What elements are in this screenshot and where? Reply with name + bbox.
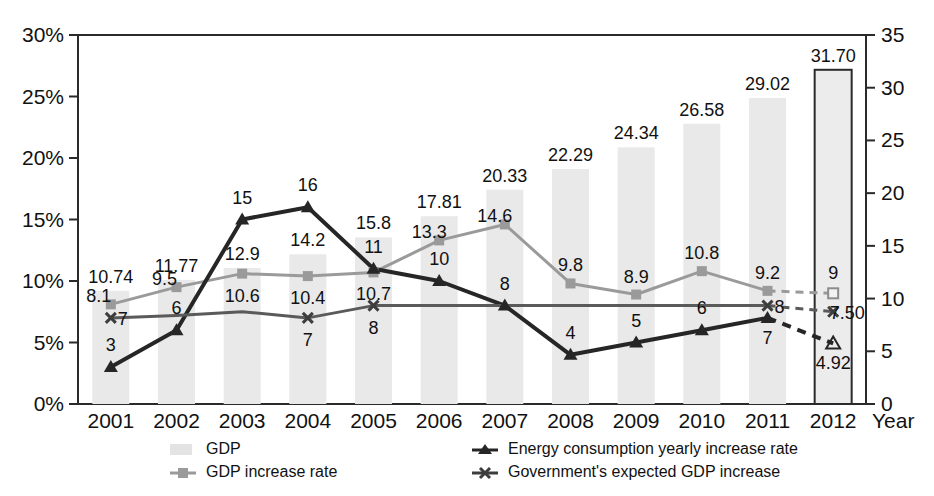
- energy-consumption-rate-data-label: 4.92: [816, 353, 851, 373]
- gdp-bar: [749, 98, 786, 404]
- x-axis-category-label: 2002: [153, 409, 200, 432]
- x-axis-category-label: 2012: [810, 409, 857, 432]
- energy-consumption-rate-data-label: 4: [565, 323, 575, 343]
- gdp-bar-label: 26.58: [679, 100, 724, 120]
- line-data-labels: 8.19.510.610.410.713.314.69.88.910.89.29…: [86, 175, 864, 373]
- right-tick-label: 25: [881, 128, 904, 151]
- gdp-increase-rate-data-label: 14.6: [477, 206, 512, 226]
- government-expected-gdp-data-label: 8: [368, 318, 378, 338]
- gdp-bar-label: 31.70: [811, 46, 856, 66]
- left-axis-ticks: 0%5%10%15%20%25%30%: [22, 23, 78, 415]
- gdp-increase-rate-marker: [303, 271, 313, 281]
- right-tick-label: 10: [881, 287, 904, 310]
- energy-consumption-rate-data-label: 8: [500, 274, 510, 294]
- x-axis-category-label: 2010: [678, 409, 725, 432]
- gdp-increase-rate-data-label: 10.6: [225, 286, 260, 306]
- gdp-bars: [92, 70, 851, 404]
- gdp-increase-rate-data-label: 10.8: [684, 243, 719, 263]
- legend-item: GDP: [170, 440, 241, 457]
- gdp-bar-label: 17.81: [417, 192, 462, 212]
- legend-square-marker-icon: [178, 468, 188, 478]
- gdp-increase-rate-marker: [697, 266, 707, 276]
- right-tick-label: 5: [881, 339, 893, 362]
- gdp-increase-rate-data-label: 8.1: [86, 286, 111, 306]
- left-tick-label: 30%: [22, 23, 64, 46]
- x-axis-category-labels: 2001200220032004200520062007200820092010…: [87, 409, 856, 432]
- legend-item-label: GDP: [206, 440, 241, 457]
- x-axis-category-label: 2008: [547, 409, 594, 432]
- gdp-bar-label: 20.33: [482, 166, 527, 186]
- gdp-bar-label: 10.74: [88, 267, 133, 287]
- x-axis-title: Year: [872, 409, 914, 432]
- gdp-bar-labels: 10.7411.7712.914.215.817.8120.3322.2924.…: [88, 46, 855, 287]
- gdp-bar-label: 14.2: [290, 230, 325, 250]
- right-axis-ticks: 05101520253035: [866, 23, 904, 415]
- x-axis-category-label: 2009: [613, 409, 660, 432]
- energy-consumption-rate-data-label: 7: [762, 328, 772, 348]
- legend-item: GDP increase rate: [170, 463, 337, 480]
- government-expected-gdp-data-label: 7.50: [830, 303, 865, 323]
- government-expected-gdp-data-label: 7: [303, 330, 313, 350]
- gdp-increase-rate-marker: [237, 269, 247, 279]
- legend-swatch-gdp-icon: [170, 444, 192, 455]
- energy-consumption-rate-data-label: 10: [429, 249, 449, 269]
- left-tick-label: 25%: [22, 85, 64, 108]
- gdp-increase-rate-marker: [631, 290, 641, 300]
- x-axis-category-label: 2007: [481, 409, 528, 432]
- right-tick-label: 20: [881, 181, 904, 204]
- left-tick-label: 0%: [34, 392, 64, 415]
- legend-item: Government's expected GDP increase: [472, 463, 780, 480]
- gdp-bar-label: 24.34: [614, 123, 659, 143]
- gdp-increase-rate-data-label: 10.4: [290, 288, 325, 308]
- left-tick-label: 5%: [34, 331, 64, 354]
- gdp-increase-rate-marker: [566, 278, 576, 288]
- gdp-increase-rate-marker: [763, 286, 773, 296]
- legend-item-label: GDP increase rate: [206, 463, 337, 480]
- line-markers-group: [104, 200, 840, 372]
- gdp-increase-rate-data-label: 9.2: [755, 263, 780, 283]
- combo-chart: 0%5%10%15%20%25%30% 05101520253035 10.74…: [0, 0, 934, 496]
- gdp-increase-rate-data-label: 8.9: [624, 267, 649, 287]
- x-axis-category-label: 2006: [416, 409, 463, 432]
- energy-consumption-rate-data-label: 6: [697, 298, 707, 318]
- energy-consumption-rate-data-label: 11: [364, 237, 383, 257]
- energy-consumption-rate-data-label: 16: [298, 175, 318, 195]
- left-tick-label: 10%: [22, 269, 64, 292]
- left-tick-label: 20%: [22, 146, 64, 169]
- energy-consumption-rate-data-label: 15: [232, 188, 252, 208]
- gdp-bar: [683, 124, 720, 404]
- legend-item: Energy consumption yearly increase rate: [472, 440, 798, 457]
- gdp-bar-label: 22.29: [548, 145, 593, 165]
- gdp-increase-rate-data-label: 9.5: [152, 269, 177, 289]
- left-tick-label: 15%: [22, 208, 64, 231]
- line-series-group: [111, 207, 833, 367]
- right-tick-label: 30: [881, 76, 904, 99]
- gdp-bar-label: 29.02: [745, 74, 790, 94]
- energy-consumption-rate-data-label: 3: [106, 335, 116, 355]
- energy-consumption-rate-data-label: 6: [171, 298, 181, 318]
- gdp-increase-rate-data-label: 9: [828, 263, 838, 283]
- gdp-bar-label: 15.8: [356, 213, 391, 233]
- x-axis-category-label: 2011: [745, 409, 790, 432]
- x-axis-category-label: 2004: [284, 409, 331, 432]
- government-expected-gdp-data-label: 8: [774, 297, 784, 317]
- legend-item-label: Energy consumption yearly increase rate: [508, 440, 798, 457]
- gdp-increase-rate-marker: [828, 288, 838, 298]
- legend-item-label: Government's expected GDP increase: [508, 463, 780, 480]
- chart-legend: GDPEnergy consumption yearly increase ra…: [170, 440, 798, 480]
- gdp-increase-rate-data-label: 9.8: [558, 255, 583, 275]
- gdp-increase-rate-data-label: 10.7: [356, 284, 391, 304]
- energy-consumption-rate-data-label: 5: [631, 311, 641, 331]
- gdp-bar-label: 12.9: [225, 244, 260, 264]
- x-axis-category-label: 2001: [87, 409, 134, 432]
- government-expected-gdp-data-label: 7: [118, 309, 128, 329]
- gdp-increase-rate-data-label: 13.3: [412, 222, 447, 242]
- right-tick-label: 15: [881, 234, 904, 257]
- x-axis-category-label: 2005: [350, 409, 397, 432]
- right-tick-label: 35: [881, 23, 904, 46]
- x-axis-category-label: 2003: [219, 409, 266, 432]
- chart-container: 0%5%10%15%20%25%30% 05101520253035 10.74…: [0, 0, 934, 496]
